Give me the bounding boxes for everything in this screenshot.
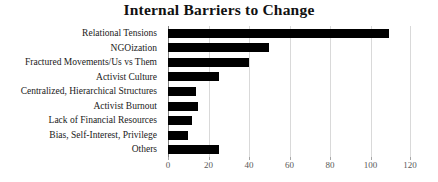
bar	[168, 43, 269, 52]
gridline-60	[290, 26, 291, 157]
bar	[168, 58, 249, 67]
bar	[168, 72, 219, 81]
bar	[168, 145, 219, 154]
category-label: Lack of Financial Resources	[0, 113, 162, 128]
gridline-80	[330, 26, 331, 157]
chart-title: Internal Barriers to Change	[0, 1, 438, 19]
bar	[168, 102, 198, 111]
bar-chart-internal-barriers: Internal Barriers to Change Relational T…	[0, 0, 438, 182]
category-label: Bias, Self-Interest, Privilege	[0, 128, 162, 143]
category-label: Activist Culture	[0, 70, 162, 85]
category-label: Relational Tensions	[0, 26, 162, 41]
gridline-120	[410, 26, 411, 157]
bar	[168, 116, 192, 125]
category-label: Fractured Movements/Us vs Them	[0, 55, 162, 70]
category-label: Activist Burnout	[0, 99, 162, 114]
tick-label-0: 0	[166, 160, 171, 170]
bar	[168, 29, 389, 38]
tick-label-120: 120	[403, 160, 417, 170]
tick-label-20: 20	[204, 160, 213, 170]
category-label: Centralized, Hierarchical Structures	[0, 84, 162, 99]
tick-label-40: 40	[245, 160, 254, 170]
x-axis: 020406080100120	[168, 157, 411, 173]
gridline-100	[371, 26, 372, 157]
category-axis-labels: Relational TensionsNGOizationFractured M…	[0, 26, 162, 157]
category-label: NGOization	[0, 41, 162, 56]
bar	[168, 131, 188, 140]
plot-area	[168, 26, 411, 157]
tick-label-60: 60	[285, 160, 294, 170]
bar	[168, 87, 196, 96]
tick-label-100: 100	[364, 160, 378, 170]
tick-label-80: 80	[326, 160, 335, 170]
category-label: Others	[0, 142, 162, 157]
